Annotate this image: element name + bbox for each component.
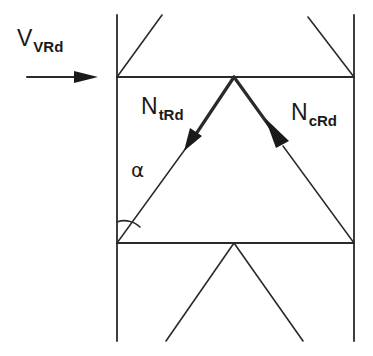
lower-right-diagonal [234,243,303,341]
compression-arrowhead-icon [265,118,289,148]
upper-right-diagonal [308,17,354,77]
shear-force-label: VVRd [17,27,63,50]
tension-force-symbol: N [141,93,158,119]
upper-left-diagonal [117,15,162,77]
shear-force-symbol: V [17,25,32,51]
tension-force-vector [194,77,234,137]
tension-force-subscript: tRd [159,106,184,123]
angle-alpha-label: α [131,160,144,180]
shear-arrowhead-icon [74,71,98,83]
compression-force-label: NcRd [291,101,337,124]
right-diagonal-member [283,146,354,243]
compression-force-subscript: cRd [309,112,337,129]
shear-force-subscript: VRd [33,38,63,55]
left-diagonal-member [117,148,186,243]
compression-force-vector [234,77,270,127]
compression-force-symbol: N [291,99,308,125]
tension-force-label: NtRd [141,95,184,118]
lower-left-diagonal [166,243,234,341]
